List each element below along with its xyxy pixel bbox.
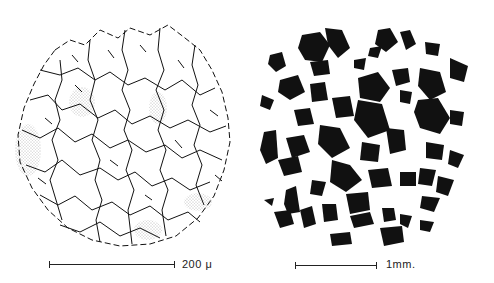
particle-illustration — [250, 0, 494, 250]
scale-label-right: 1mm. — [386, 258, 416, 270]
scale-bar-left — [49, 260, 175, 270]
grain-boundaries — [18, 25, 230, 246]
scale-label-left: 200 μ — [182, 258, 212, 270]
grain-network-illustration — [0, 0, 250, 250]
stippled-regions — [15, 87, 212, 240]
scale-bar-right — [295, 261, 377, 271]
grain-boundary-drawing — [0, 0, 250, 250]
particles — [260, 28, 468, 246]
particle-silhouette-drawing — [250, 0, 494, 250]
